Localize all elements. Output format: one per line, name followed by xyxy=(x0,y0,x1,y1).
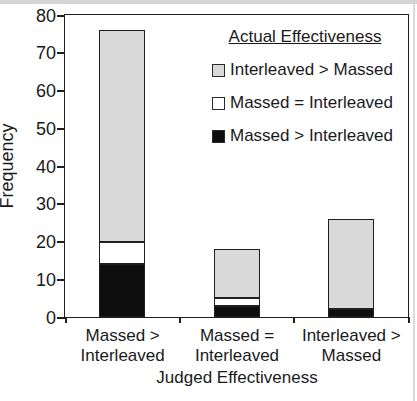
y-tick-label-80: 80 xyxy=(14,6,56,26)
bar-3-segment-interleaved-massed xyxy=(328,219,374,310)
legend-entry-label: Massed = Interleaved xyxy=(230,93,393,113)
scan-artifact-top xyxy=(0,0,417,4)
x-category-label-3: Interleaved >Massed xyxy=(285,326,417,366)
x-category-label-1-line-1: Massed > xyxy=(57,326,189,346)
bar-2-segment-massed-interleaved xyxy=(214,298,260,306)
bar-2-segment-interleaved-massed xyxy=(214,249,260,298)
y-tick-label-10: 10 xyxy=(14,270,56,290)
y-tick-label-70: 70 xyxy=(14,43,56,63)
x-category-label-2-line-2: Interleaved xyxy=(171,346,303,366)
y-tick-label-40: 40 xyxy=(14,157,56,177)
y-tick-label-60: 60 xyxy=(14,81,56,101)
legend-entry-interleaved-massed: Interleaved > Massed xyxy=(212,60,398,80)
legend-entry-label: Interleaved > Massed xyxy=(230,60,393,80)
y-tick-label-0: 0 xyxy=(14,308,56,328)
y-tick-label-30: 30 xyxy=(14,194,56,214)
x-category-label-3-line-2: Massed xyxy=(285,346,417,366)
legend-swatch-icon xyxy=(212,64,225,77)
x-category-label-1: Massed >Interleaved xyxy=(57,326,189,366)
legend-title: Actual Effectiveness xyxy=(212,27,398,47)
legend: Actual Effectiveness Interleaved > Masse… xyxy=(212,27,398,146)
x-tick-mark-1 xyxy=(179,317,181,323)
y-tick-label-20: 20 xyxy=(14,232,56,252)
bar-1-segment-massed-interleaved xyxy=(99,264,145,317)
legend-entries: Interleaved > MassedMassed = Interleaved… xyxy=(212,60,398,146)
legend-swatch-icon xyxy=(212,97,225,110)
x-category-label-3-line-1: Interleaved > xyxy=(285,326,417,346)
x-category-label-2: Massed =Interleaved xyxy=(171,326,303,366)
x-axis-title: Judged Effectiveness xyxy=(126,368,348,388)
x-tick-mark-0 xyxy=(65,317,67,323)
y-tick-mark-40 xyxy=(57,166,65,168)
plot-area: Actual Effectiveness Interleaved > Masse… xyxy=(64,14,409,318)
bar-1-segment-interleaved-massed xyxy=(99,30,145,241)
bar-3-segment-massed-interleaved xyxy=(328,309,374,317)
x-category-label-1-line-2: Interleaved xyxy=(57,346,189,366)
y-tick-mark-10 xyxy=(57,279,65,281)
bar-1-segment-massed-interleaved xyxy=(99,242,145,265)
y-tick-mark-30 xyxy=(57,203,65,205)
y-tick-mark-50 xyxy=(57,128,65,130)
y-tick-mark-80 xyxy=(57,15,65,17)
x-category-label-2-line-1: Massed = xyxy=(171,326,303,346)
legend-entry-massed-interleaved: Massed > Interleaved xyxy=(212,126,398,146)
x-tick-mark-2 xyxy=(293,317,295,323)
bar-2-segment-massed-interleaved xyxy=(214,306,260,317)
y-tick-mark-20 xyxy=(57,241,65,243)
chart-figure: Frequency Actual Effectiveness Interleav… xyxy=(0,0,417,401)
y-tick-mark-60 xyxy=(57,90,65,92)
x-tick-mark-3 xyxy=(408,317,410,323)
y-tick-label-50: 50 xyxy=(14,119,56,139)
legend-swatch-icon xyxy=(212,130,225,143)
legend-entry-label: Massed > Interleaved xyxy=(230,126,393,146)
legend-entry-massed-interleaved: Massed = Interleaved xyxy=(212,93,398,113)
y-tick-mark-70 xyxy=(57,52,65,54)
